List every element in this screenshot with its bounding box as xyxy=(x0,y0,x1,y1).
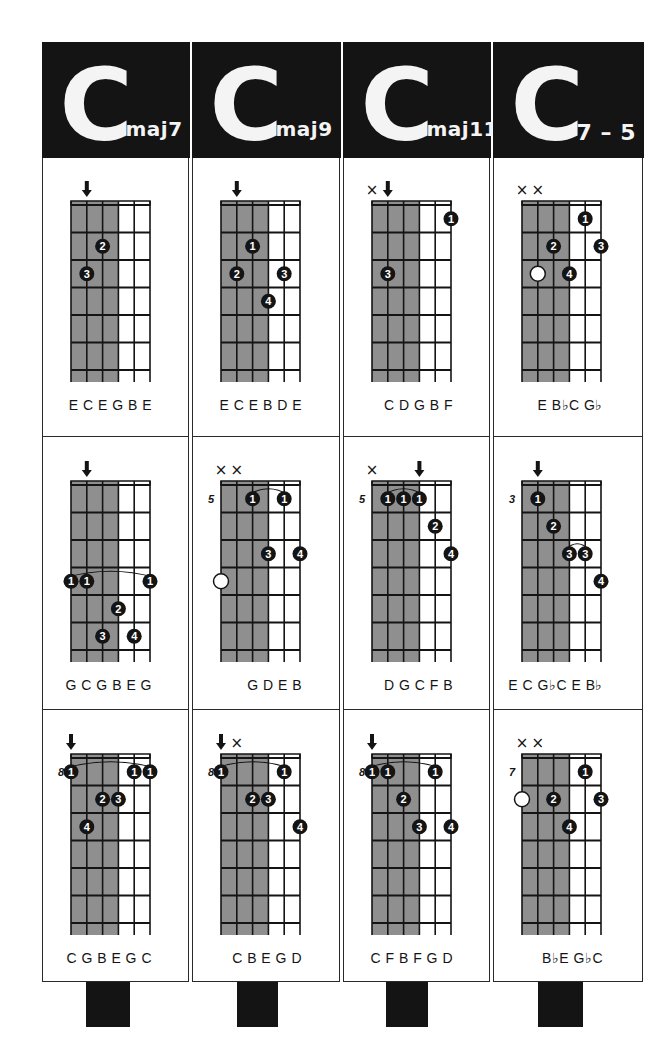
finger-dot: 3 xyxy=(578,546,593,561)
muted-string-icon: × xyxy=(215,461,228,479)
finger-dot: 3 xyxy=(412,819,427,834)
svg-text:1: 1 xyxy=(281,766,287,778)
finger-dot: 1 xyxy=(444,211,459,226)
svg-text:1: 1 xyxy=(432,766,438,778)
finger-dot: 1 xyxy=(277,491,292,506)
chord-title-header: Cmaj11 xyxy=(343,42,491,158)
fretboard-diagram: 23E C E G B E xyxy=(43,159,187,436)
svg-text:4: 4 xyxy=(566,268,573,280)
svg-text:3: 3 xyxy=(265,793,271,805)
finger-dot: 4 xyxy=(562,266,577,281)
fretboard-diagram: ××1234E B♭C G♭ xyxy=(494,159,641,436)
root-arrow-icon xyxy=(383,181,393,197)
column-bottom-tab xyxy=(86,982,130,1027)
finger-dot: 1 xyxy=(428,764,443,779)
svg-text:1: 1 xyxy=(416,493,422,505)
svg-text:1: 1 xyxy=(582,766,588,778)
svg-text:2: 2 xyxy=(551,520,557,532)
finger-dot: 1 xyxy=(578,211,593,226)
svg-text:3: 3 xyxy=(281,268,287,280)
column-bottom-tab xyxy=(386,982,428,1027)
chord-quality: maj11 xyxy=(427,118,499,140)
root-arrow-icon xyxy=(232,181,242,197)
string-note-names: C B E G D xyxy=(232,950,302,966)
finger-dot: 3 xyxy=(380,266,395,281)
chord-diagram-3: 8×11234C B E G D xyxy=(193,709,339,984)
base-fret-number: 5 xyxy=(208,493,215,505)
finger-dot: 3 xyxy=(79,266,94,281)
svg-text:4: 4 xyxy=(566,821,573,833)
fretboard-diagram: 5××1134G D E B xyxy=(193,437,338,710)
chord-diagram-2: 5××1134G D E B xyxy=(193,436,339,710)
base-fret-number: 5 xyxy=(359,493,366,505)
svg-text:3: 3 xyxy=(115,793,121,805)
svg-text:2: 2 xyxy=(250,793,256,805)
svg-text:2: 2 xyxy=(234,268,240,280)
svg-text:2: 2 xyxy=(100,793,106,805)
finger-dot: 1 xyxy=(578,764,593,779)
svg-text:4: 4 xyxy=(448,548,455,560)
chord-column-2: Cmaj91234E C E B D E5××1134G D E B8×1123… xyxy=(192,42,340,982)
finger-dot: 1 xyxy=(245,239,260,254)
svg-text:3: 3 xyxy=(598,793,604,805)
root-arrow-icon xyxy=(533,461,543,477)
svg-text:1: 1 xyxy=(582,213,588,225)
svg-text:2: 2 xyxy=(551,240,557,252)
finger-dot: 1 xyxy=(380,764,395,779)
muted-string-icon: × xyxy=(231,734,244,752)
chord-diagram-2: 312334E C G♭C E B♭ xyxy=(494,436,642,710)
column-bottom-tab xyxy=(538,982,583,1027)
finger-dot: 4 xyxy=(444,546,459,561)
string-note-names: G C G B E G xyxy=(66,677,152,693)
chord-diagram-1: ××1234E B♭C G♭ xyxy=(494,159,642,436)
finger-dot: 1 xyxy=(127,764,142,779)
finger-dot: 1 xyxy=(64,574,79,589)
svg-text:3: 3 xyxy=(84,268,90,280)
finger-dot: 4 xyxy=(293,819,308,834)
chord-diagram-3: 8111234C G B E G C xyxy=(43,709,188,984)
muted-string-icon: × xyxy=(532,734,545,752)
svg-text:3: 3 xyxy=(598,240,604,252)
finger-dot: 4 xyxy=(293,546,308,561)
string-note-names: C G B E G C xyxy=(66,950,152,966)
chord-column-4: C7 – 5××1234E B♭C G♭312334E C G♭C E B♭7×… xyxy=(493,42,643,982)
string-note-names: E C G♭C E B♭ xyxy=(508,677,603,693)
string-note-names: E C E B D E xyxy=(219,397,302,413)
root-arrow-icon xyxy=(82,461,92,477)
chord-diagram-1: ×13C D G B F xyxy=(344,159,489,436)
root-arrow-icon xyxy=(414,461,424,477)
fretboard-diagram: ×13C D G B F xyxy=(344,159,488,436)
svg-text:1: 1 xyxy=(147,575,153,587)
svg-text:1: 1 xyxy=(535,493,541,505)
finger-dot: 4 xyxy=(261,294,276,309)
fretboard-diagram: 8×11234C B E G D xyxy=(193,710,338,984)
chord-diagram-2: 111234G C G B E G xyxy=(43,436,188,710)
string-note-names: C D G B F xyxy=(384,397,453,413)
svg-text:1: 1 xyxy=(281,493,287,505)
svg-text:4: 4 xyxy=(297,548,304,560)
chord-diagram-1: 23E C E G B E xyxy=(43,159,188,436)
svg-text:1: 1 xyxy=(250,493,256,505)
chord-root: C xyxy=(60,56,131,156)
finger-dot: 4 xyxy=(562,819,577,834)
finger-dot: 1 xyxy=(365,764,380,779)
svg-text:4: 4 xyxy=(598,575,605,587)
finger-dot: 3 xyxy=(111,792,126,807)
svg-text:4: 4 xyxy=(448,821,455,833)
chord-diagram-2: 5×11124D G C F B xyxy=(344,436,489,710)
finger-dot: 4 xyxy=(127,629,142,644)
svg-text:4: 4 xyxy=(131,630,138,642)
chord-title-header: Cmaj7 xyxy=(42,42,190,158)
finger-dot: 4 xyxy=(444,819,459,834)
optional-note-dot xyxy=(214,574,229,589)
fretboard-diagram: 5×11124D G C F B xyxy=(344,437,488,710)
root-arrow-icon xyxy=(82,181,92,197)
optional-note-dot xyxy=(530,266,545,281)
finger-dot: 2 xyxy=(428,519,443,534)
finger-dot: 2 xyxy=(546,239,561,254)
svg-text:2: 2 xyxy=(100,240,106,252)
finger-dot: 1 xyxy=(214,764,229,779)
base-fret-number: 7 xyxy=(509,766,516,778)
svg-text:1: 1 xyxy=(131,766,137,778)
svg-text:1: 1 xyxy=(68,766,74,778)
